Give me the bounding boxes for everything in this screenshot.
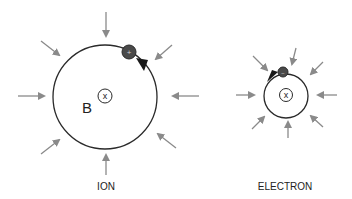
arrow-icon <box>41 41 59 55</box>
ion-label: ION <box>97 181 115 192</box>
arrow-icon <box>253 56 267 70</box>
ion-group: + x B ION <box>18 12 199 192</box>
electron-field-symbol: x <box>284 90 289 100</box>
arrow-icon <box>41 140 59 154</box>
arrow-icon <box>311 116 323 127</box>
arrow-icon <box>292 48 296 64</box>
ion-charge-symbol: + <box>127 48 132 57</box>
electron-group: − x ELECTRON <box>236 48 337 192</box>
arrow-icon <box>156 45 172 59</box>
arrow-icon <box>158 134 176 148</box>
electron-charge-symbol: − <box>281 70 285 76</box>
arrow-icon <box>311 62 323 74</box>
ion-direction-arrowhead-icon <box>136 58 148 71</box>
arrow-icon <box>252 117 264 129</box>
electron-label: ELECTRON <box>258 181 312 192</box>
ion-field-symbol: x <box>103 91 108 101</box>
ion-force-arrows <box>18 12 199 175</box>
gyration-diagram: + x B ION − x ELECTRON <box>0 0 352 199</box>
field-label-b: B <box>82 99 92 116</box>
